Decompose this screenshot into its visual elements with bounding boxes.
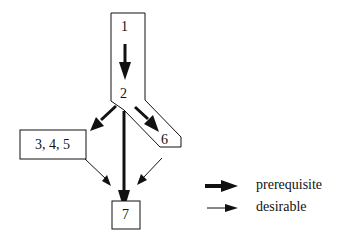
arrowhead-1-to-2: [119, 62, 131, 80]
arrow-2-to-345: [101, 106, 116, 120]
legend-label-prerequisite: prerequisite: [256, 178, 322, 192]
legend-prerequisite-head: [221, 180, 238, 192]
node-label-345: 3, 4, 5: [35, 138, 70, 152]
node-label-6: 6: [161, 133, 168, 147]
arrow-2-to-6: [135, 107, 148, 119]
node-label-7: 7: [122, 208, 129, 222]
legend-label-desirable: desirable: [256, 200, 307, 214]
node-label-2: 2: [120, 87, 127, 101]
arrow-345-to-7: [85, 159, 106, 179]
node-label-1: 1: [121, 20, 128, 34]
legend-desirable-head: [225, 204, 238, 212]
arrow-6-to-7: [143, 158, 162, 178]
